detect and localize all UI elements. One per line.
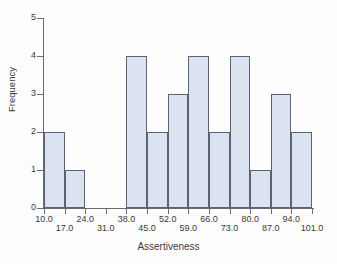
plot-area: [44, 18, 312, 208]
x-axis-tick: [188, 209, 189, 214]
histogram-bar: [209, 132, 230, 208]
x-axis-tick-label: 24.0: [76, 214, 94, 224]
x-axis-tick-label: 38.0: [118, 214, 136, 224]
x-axis-tick-label: 94.0: [283, 214, 301, 224]
histogram-bar: [65, 170, 86, 208]
histogram-bar: [188, 56, 209, 208]
histogram-bar: [230, 56, 251, 208]
x-axis-tick-label: 80.0: [241, 214, 259, 224]
y-axis-tick-label: 5: [6, 13, 36, 22]
histogram-bar: [168, 94, 189, 208]
y-axis-tick-label: 0: [6, 203, 36, 212]
x-axis-tick-label: 10.0: [35, 214, 53, 224]
y-axis-tick: [37, 94, 43, 95]
x-axis-tick-label: 101.0: [301, 223, 324, 233]
y-axis-tick-label: 1: [6, 165, 36, 174]
histogram-bar: [271, 94, 292, 208]
y-axis-tick-label: 3: [6, 89, 36, 98]
x-axis-tick-label: 87.0: [262, 223, 280, 233]
x-axis-line: [43, 208, 314, 209]
x-axis-tick-label: 73.0: [221, 223, 239, 233]
y-axis-tick: [37, 132, 43, 133]
x-axis-title: Assertiveness: [0, 241, 337, 252]
y-axis-tick: [37, 18, 43, 19]
y-axis-line: [43, 18, 44, 209]
x-axis-tick-label: 59.0: [180, 223, 198, 233]
y-axis-tick: [37, 170, 43, 171]
x-axis-tick: [65, 209, 66, 214]
x-axis-tick: [312, 209, 313, 214]
x-axis-tick: [230, 209, 231, 214]
y-axis-tick-label: 4: [6, 51, 36, 60]
histogram-bar: [44, 132, 65, 208]
y-axis-tick-label: 2: [6, 127, 36, 136]
x-axis-tick-label: 17.0: [56, 223, 74, 233]
histogram-bar: [291, 132, 312, 208]
histogram-bar: [147, 132, 168, 208]
x-axis-tick-label: 66.0: [200, 214, 218, 224]
y-axis-tick: [37, 56, 43, 57]
x-axis-tick: [106, 209, 107, 214]
x-axis-tick-label: 45.0: [138, 223, 156, 233]
histogram-figure: Frequency Assertiveness 01234510.017.024…: [0, 0, 337, 264]
histogram-bar: [250, 170, 271, 208]
x-axis-tick-label: 52.0: [159, 214, 177, 224]
histogram-bar: [126, 56, 147, 208]
x-axis-tick: [147, 209, 148, 214]
x-axis-tick: [271, 209, 272, 214]
x-axis-tick-label: 31.0: [97, 223, 115, 233]
y-axis-tick: [37, 208, 43, 209]
